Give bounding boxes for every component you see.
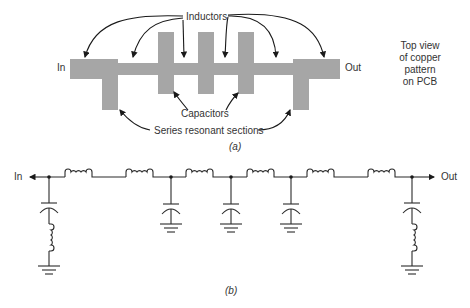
- pcb-copper-pattern: [70, 32, 340, 110]
- series-resonant-stub-left: [102, 59, 118, 110]
- series-resonant-label: Series resonant sections: [154, 125, 264, 137]
- shunt-capacitor-3: [280, 177, 302, 232]
- pcb-in-label: In: [57, 62, 65, 74]
- capacitors-label: Capacitors: [181, 108, 229, 120]
- schematic-out-label: Out: [441, 171, 457, 183]
- capacitor-stub-1: [158, 32, 174, 94]
- series-resonant-branch-left: [38, 177, 60, 274]
- series-resonant-stub-right: [293, 59, 309, 110]
- schematic-in-label: In: [14, 171, 22, 183]
- caption-a: (a): [229, 141, 241, 153]
- schematic: [30, 169, 434, 274]
- capacitor-stub-3: [238, 32, 254, 94]
- shunt-capacitor-2: [220, 177, 242, 232]
- caption-b: (b): [225, 285, 237, 297]
- shunt-capacitor-1: [160, 177, 182, 232]
- series-resonant-branch-right: [401, 177, 423, 274]
- main-trace: [70, 59, 106, 79]
- top-view-note: Top view of copper pattern on PCB: [380, 40, 460, 88]
- inductors-label: Inductors: [186, 11, 227, 23]
- pcb-out-label: Out: [345, 62, 361, 74]
- capacitor-stub-2: [198, 32, 214, 94]
